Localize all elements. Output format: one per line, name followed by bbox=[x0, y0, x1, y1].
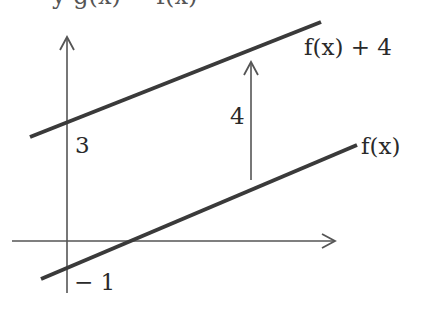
shift-label: 4 bbox=[230, 103, 245, 129]
lower-line-label: f(x) bbox=[361, 133, 400, 159]
upper-line-label: f(x) + 4 bbox=[304, 34, 392, 60]
upper-intercept-label: 3 bbox=[75, 132, 90, 158]
line-f-plus-4 bbox=[30, 22, 321, 137]
translation-diagram: y g(x) = f(x) f(x) + 4 f(x) 4 3 − 1 bbox=[0, 0, 431, 309]
lower-intercept-label: − 1 bbox=[74, 269, 115, 295]
title-partial: y g(x) = f(x) bbox=[51, 0, 197, 10]
x-axis bbox=[12, 234, 335, 248]
y-axis bbox=[60, 37, 74, 293]
shift-arrow bbox=[244, 62, 258, 180]
line-f bbox=[41, 145, 357, 279]
